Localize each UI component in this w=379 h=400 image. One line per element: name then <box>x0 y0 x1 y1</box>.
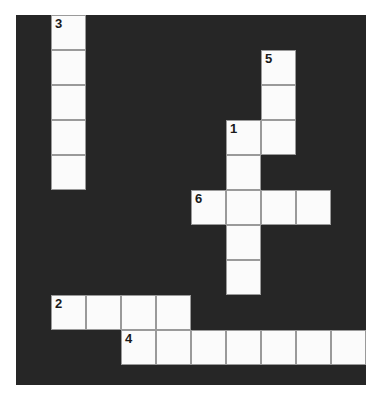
crossword-cell[interactable] <box>191 330 226 365</box>
crossword-cell[interactable] <box>261 190 296 225</box>
crossword-cell[interactable]: 2 <box>51 295 86 330</box>
crossword-cell[interactable] <box>331 330 366 365</box>
crossword-cell[interactable] <box>296 330 331 365</box>
cell-number-1: 1 <box>230 121 237 136</box>
crossword-cell[interactable]: 4 <box>121 330 156 365</box>
crossword-cell[interactable] <box>296 190 331 225</box>
crossword-cell[interactable] <box>156 330 191 365</box>
cell-number-5: 5 <box>265 51 272 66</box>
crossword-cell[interactable] <box>226 330 261 365</box>
crossword-cell[interactable] <box>121 295 156 330</box>
crossword-cell[interactable]: 1 <box>226 120 261 155</box>
crossword-cell[interactable] <box>261 85 296 120</box>
cell-number-4: 4 <box>125 331 132 346</box>
crossword-cell[interactable] <box>86 295 121 330</box>
crossword-cell[interactable] <box>51 120 86 155</box>
crossword-cell[interactable] <box>226 190 261 225</box>
crossword-cell[interactable] <box>51 155 86 190</box>
cell-number-2: 2 <box>55 296 62 311</box>
crossword-cell[interactable] <box>226 260 261 295</box>
cell-number-6: 6 <box>195 191 202 206</box>
cell-number-3: 3 <box>55 16 62 31</box>
crossword-cell[interactable] <box>226 225 261 260</box>
crossword-cell[interactable] <box>261 330 296 365</box>
crossword-cell[interactable] <box>51 50 86 85</box>
crossword-cell[interactable]: 3 <box>51 15 86 50</box>
crossword-cell[interactable]: 5 <box>261 50 296 85</box>
crossword-puzzle: 351624 <box>0 0 379 400</box>
crossword-cell[interactable]: 6 <box>191 190 226 225</box>
crossword-grid-board: 351624 <box>16 15 366 385</box>
crossword-cell[interactable] <box>156 295 191 330</box>
crossword-cell[interactable] <box>226 155 261 190</box>
crossword-cell[interactable] <box>51 85 86 120</box>
crossword-cell[interactable] <box>261 120 296 155</box>
